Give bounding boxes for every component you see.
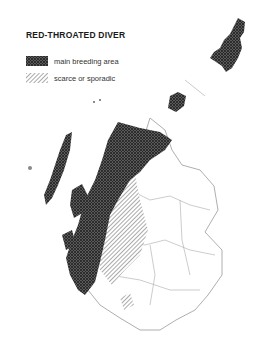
legend-item-main: main breeding area: [26, 54, 119, 68]
legend-item-scarce: scarce or sporadic: [26, 71, 119, 85]
crosshatch-swatch-icon: [26, 56, 48, 66]
map-title: RED-THROATED DIVER: [26, 30, 125, 40]
diagonal-swatch-icon: [26, 73, 48, 83]
legend-label: scarce or sporadic: [54, 74, 115, 83]
legend-label: main breeding area: [54, 57, 119, 66]
orkney-region: [168, 92, 186, 112]
outer-hebrides-region: [44, 132, 72, 205]
shetland-region: [210, 18, 245, 72]
legend: main breeding area scarce or sporadic: [26, 54, 119, 88]
